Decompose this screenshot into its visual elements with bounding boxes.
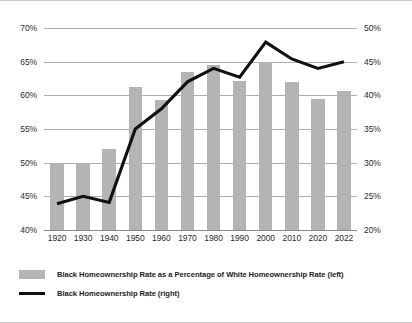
x-axis-labels: 1920193019401950196019701980199020002010… (44, 234, 357, 248)
legend-item-bar: Black Homeownership Rate as a Percentage… (19, 269, 399, 280)
y-tick-left: 40% (20, 226, 37, 235)
x-tick-label: 2020 (309, 234, 328, 243)
bar-swatch-icon (19, 270, 45, 279)
x-tick-label: 1990 (230, 234, 249, 243)
y-tick-right: 25% (364, 192, 381, 201)
x-tick-label: 1950 (126, 234, 145, 243)
x-tick-label: 1920 (48, 234, 67, 243)
x-tick-label: 2000 (256, 234, 275, 243)
y-tick-right: 35% (364, 125, 381, 134)
plot-area: 40%45%50%55%60%65%70% 20%25%30%35%40%45%… (44, 28, 357, 230)
x-tick-label: 1940 (100, 234, 119, 243)
y-tick-right: 45% (364, 58, 381, 67)
y-tick-left: 60% (20, 91, 37, 100)
y-tick-left: 55% (20, 125, 37, 134)
legend-label-bar: Black Homeownership Rate as a Percentage… (57, 271, 344, 279)
gridline (44, 230, 357, 231)
y-tick-left: 65% (20, 58, 37, 67)
y-tick-right: 20% (364, 226, 381, 235)
y-tick-left: 45% (20, 192, 37, 201)
x-tick-label: 2022 (335, 234, 354, 243)
chart-figure: 40%45%50%55%60%65%70% 20%25%30%35%40%45%… (0, 0, 412, 323)
x-tick-label: 2010 (283, 234, 302, 243)
line-series (44, 28, 357, 230)
chart-legend: Black Homeownership Rate as a Percentage… (19, 269, 399, 307)
y-tick-right: 50% (364, 24, 381, 33)
line-swatch-icon (19, 292, 45, 295)
x-tick-label: 1960 (152, 234, 171, 243)
y-tick-right: 30% (364, 159, 381, 168)
x-tick-label: 1970 (178, 234, 197, 243)
legend-label-line: Black Homeownership Rate (right) (57, 290, 179, 298)
line-path (57, 42, 344, 204)
y-tick-left: 70% (20, 24, 37, 33)
x-tick-label: 1930 (74, 234, 93, 243)
y-tick-left: 50% (20, 159, 37, 168)
x-tick-label: 1980 (204, 234, 223, 243)
legend-item-line: Black Homeownership Rate (right) (19, 288, 399, 299)
y-tick-right: 40% (364, 91, 381, 100)
